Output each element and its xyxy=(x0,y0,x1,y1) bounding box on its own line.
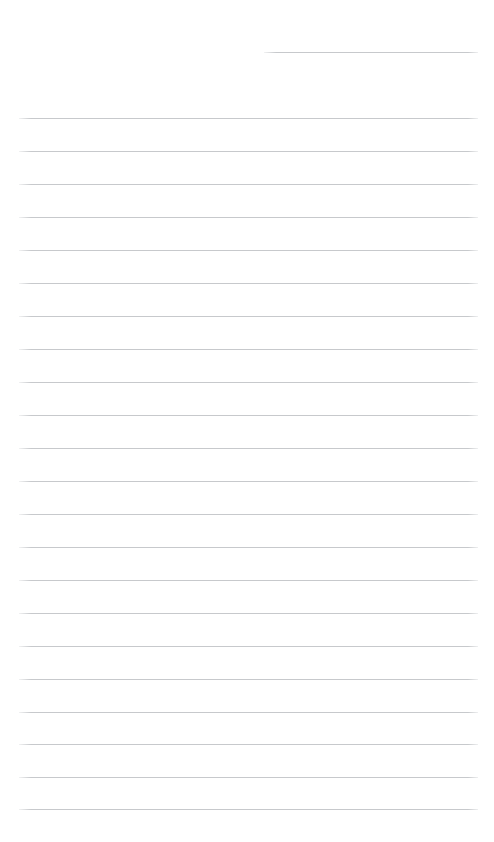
rule-line xyxy=(19,809,478,810)
rule-line xyxy=(19,514,478,515)
rule-line xyxy=(19,448,478,449)
rule-line xyxy=(19,613,478,614)
rule-line xyxy=(19,382,478,383)
rule-line xyxy=(19,547,478,548)
rule-line xyxy=(19,316,478,317)
rule-line xyxy=(19,250,478,251)
rule-line xyxy=(19,744,478,745)
rule-line xyxy=(19,118,478,119)
notepad-page xyxy=(0,0,494,842)
rule-line xyxy=(19,646,478,647)
rule-line xyxy=(19,349,478,350)
rule-line xyxy=(19,777,478,778)
rule-line xyxy=(19,415,478,416)
rule-line xyxy=(19,580,478,581)
rule-line xyxy=(19,712,478,713)
rule-line xyxy=(19,151,478,152)
rule-line xyxy=(19,679,478,680)
rule-line-partial xyxy=(264,52,478,53)
writing-area[interactable] xyxy=(0,0,494,842)
rule-line xyxy=(19,217,478,218)
rule-line xyxy=(19,283,478,284)
rule-line xyxy=(19,184,478,185)
rule-line xyxy=(19,481,478,482)
